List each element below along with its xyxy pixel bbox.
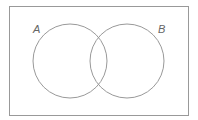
set-b-label: B (158, 23, 165, 35)
set-a-circle (33, 24, 107, 98)
venn-diagram: A B (0, 0, 198, 120)
set-b-circle (90, 24, 164, 98)
set-a-label: A (32, 23, 40, 35)
